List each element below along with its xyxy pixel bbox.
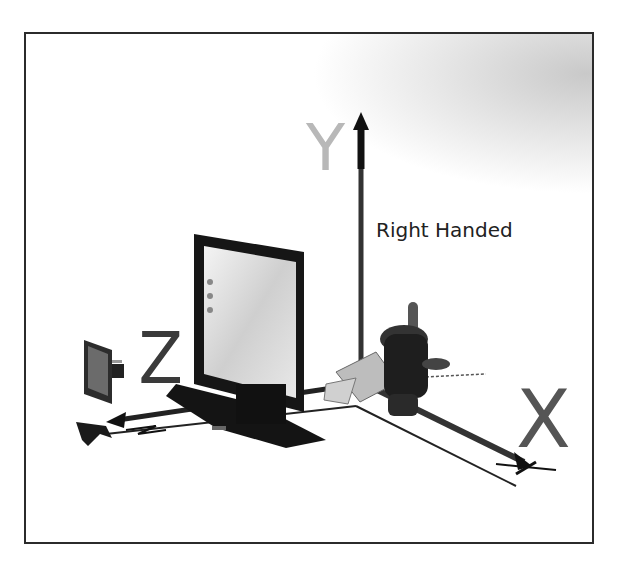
diagram-frame: Y Z X Right Handed — [24, 32, 594, 544]
y-axis-arrow — [353, 112, 369, 372]
hand-model — [380, 302, 450, 416]
z-axis-label: Z — [138, 322, 182, 394]
y-axis-label: Y — [306, 116, 345, 180]
x-axis-label: X — [516, 380, 571, 460]
monitor — [166, 234, 326, 448]
camera — [84, 340, 124, 404]
handedness-caption: Right Handed — [376, 218, 513, 242]
